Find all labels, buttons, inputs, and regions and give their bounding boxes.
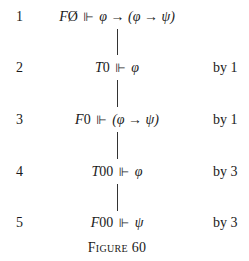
row-number: 1 [16,7,23,27]
justification: by 1 [213,110,238,130]
row-number: 4 [16,162,23,182]
tableau-row-5: 5 F00 ⊩ ψ by 3 [0,213,249,233]
forces-symbol: ⊩ [117,216,131,230]
node-label: Ø [68,9,78,24]
forces-symbol: ⊩ [94,113,108,127]
tableau-edge [117,29,118,55]
row-number: 2 [16,58,23,78]
sign: F [59,9,68,24]
formula: φ → (φ → ψ) [99,9,175,24]
sign: F [75,112,84,127]
sign: T [92,164,100,179]
formula: (φ → ψ) [112,112,159,127]
tableau-row-4: 4 T00 ⊩ φ by 3 [0,162,249,182]
node-label: 00 [99,164,113,179]
node-label: 00 [99,215,113,230]
tableau-edge [117,132,118,159]
forces-symbol: ⊩ [117,165,131,179]
row-number: 5 [16,213,23,233]
signed-forcing-statement: F00 ⊩ ψ [91,213,144,233]
sign: F [91,215,100,230]
tableau-row-1: 1 FØ ⊩ φ → (φ → ψ) [0,7,249,27]
tableau-row-3: 3 F0 ⊩ (φ → ψ) by 1 [0,110,249,130]
justification: by 3 [213,213,238,233]
tableau-edge [117,80,118,107]
signed-forcing-statement: T0 ⊩ φ [95,58,139,78]
justification: by 1 [213,58,238,78]
forces-symbol: ⊩ [113,61,127,75]
tableau-edge [117,184,118,211]
tableau-row-2: 2 T0 ⊩ φ by 1 [0,58,249,78]
justification: by 3 [213,162,238,182]
figure-caption: Figure 60 [0,238,234,258]
node-label: 0 [103,60,110,75]
signed-forcing-statement: FØ ⊩ φ → (φ → ψ) [59,7,175,27]
signed-forcing-statement: T00 ⊩ φ [92,162,143,182]
row-number: 3 [16,110,23,130]
sign: T [95,60,103,75]
formula: ψ [135,215,144,230]
formula: φ [135,164,143,179]
forces-symbol: ⊩ [81,10,95,24]
node-label: 0 [84,112,91,127]
formula: φ [131,60,139,75]
signed-forcing-statement: F0 ⊩ (φ → ψ) [75,110,159,130]
